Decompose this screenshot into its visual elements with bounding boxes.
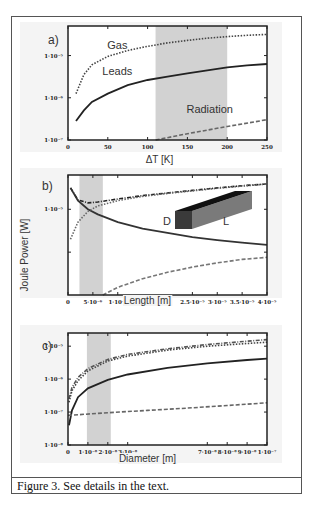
panel-a: 0501001502002501·10⁻⁷1·10⁻⁶1·10⁻⁵a)ΔT [K… — [20, 22, 282, 165]
x-axis-label: Diameter [m] — [119, 453, 176, 464]
panel-label: b) — [42, 179, 53, 193]
figure-caption: Figure 3. See details in the text. — [17, 479, 169, 494]
x-tick-label: 8·10⁻⁸ — [218, 449, 237, 455]
x-tick-label: 1·10⁻⁸ — [79, 449, 98, 455]
x-tick-label: 3·10⁻⁵ — [208, 299, 227, 305]
x-tick-label: 3.5·10⁻⁵ — [230, 299, 255, 305]
x-tick-label: 1·10⁻⁷ — [258, 449, 277, 455]
x-tick-label: 0 — [66, 144, 70, 150]
panel-label: c) — [42, 339, 52, 353]
inset-label-d: D — [163, 215, 171, 227]
x-tick-label: 200 — [221, 144, 233, 150]
x-tick-label: 100 — [142, 144, 154, 150]
x-tick-label: 9·10⁻⁸ — [238, 449, 257, 455]
annotation-radiation: Radiation — [186, 103, 232, 115]
x-tick-label: 0 — [66, 299, 70, 305]
x-tick-label: 2·10⁻⁸ — [98, 449, 117, 455]
figure-svg: 0501001502002501·10⁻⁷1·10⁻⁶1·10⁻⁵a)ΔT [K… — [0, 0, 316, 508]
panel-c: 01·10⁻⁸2·10⁻⁸3·10⁻⁸7·10⁻⁸8·10⁻⁸9·10⁻⁸1·1… — [20, 325, 282, 464]
annotation-gas: Gas — [107, 39, 128, 51]
y-axis-label: Joule Power [W] — [19, 218, 30, 291]
annotation-leads: Leads — [102, 65, 132, 77]
x-tick-label: 50 — [104, 144, 112, 150]
y-tick-label: 1·10⁻⁶ — [44, 95, 63, 101]
y-tick-label: 1·10⁻⁷ — [44, 137, 63, 143]
x-tick-label: 0 — [66, 449, 70, 455]
y-tick-label: 1·10⁻⁵ — [44, 206, 63, 212]
y-tick-label: 1·10⁻⁵ — [44, 53, 63, 59]
y-tick-label: 1·10⁻⁸ — [44, 442, 63, 448]
bar-front-face — [175, 211, 192, 229]
inset-label-l: L — [223, 215, 229, 227]
x-tick-label: 7·10⁻⁸ — [198, 449, 217, 455]
caption-box: Figure 3. See details in the text. — [11, 477, 302, 494]
y-tick-label: 1·10⁻⁶ — [44, 376, 63, 382]
x-axis-label: Length [m] — [124, 295, 171, 306]
panel-label: a) — [48, 33, 59, 47]
x-tick-label: 4·10⁻⁵ — [258, 299, 277, 305]
x-axis-label: ΔT [K] — [146, 154, 174, 165]
panel-b: 05·10⁻⁶1·10⁻⁵2.5·10⁻⁵3·10⁻⁵3.5·10⁻⁵4·10⁻… — [19, 168, 282, 306]
shaded-region — [87, 333, 111, 445]
x-tick-label: 5·10⁻⁶ — [84, 299, 103, 305]
x-tick-label: 250 — [261, 144, 273, 150]
x-tick-label: 2.5·10⁻⁵ — [180, 299, 205, 305]
shaded-region — [79, 175, 102, 295]
y-tick-label: 1·10⁻⁷ — [44, 409, 63, 415]
x-tick-label: 150 — [182, 144, 194, 150]
